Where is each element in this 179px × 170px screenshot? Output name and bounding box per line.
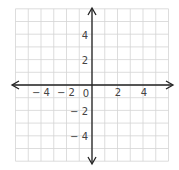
y-tick-label: − 4 xyxy=(70,131,88,142)
x-tick-label: 4 xyxy=(141,87,147,98)
x-tick-label: 2 xyxy=(115,87,121,98)
x-tick-label: − 2 xyxy=(57,87,75,98)
coordinate-plane: − 4 − 2 0 2 4 4 2 − 2 − 4 xyxy=(0,0,179,170)
y-tick-label: 2 xyxy=(82,55,88,66)
y-tick-label: − 2 xyxy=(70,106,88,117)
y-tick-label: 4 xyxy=(82,30,88,41)
axes xyxy=(12,8,173,164)
x-tick-label: − 4 xyxy=(32,87,50,98)
x-tick-label: 0 xyxy=(83,88,89,99)
